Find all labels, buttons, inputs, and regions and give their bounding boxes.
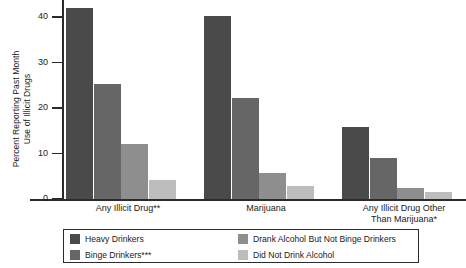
bar-g2-s2: [397, 188, 424, 199]
bar-g0-s2: [121, 144, 148, 199]
bar-g1-s2: [259, 173, 286, 199]
x-axis-line: [30, 199, 466, 201]
y-tick-label-0: 0: [26, 194, 48, 203]
bar-g1-s3: [287, 186, 314, 199]
chart-container: Percent Reporting Past Month Use of Illi…: [0, 0, 466, 268]
legend-swatch-1: [70, 250, 80, 260]
legend-swatch-3: [238, 250, 248, 260]
y-tick-20: [52, 107, 63, 108]
legend-label-1: Binge Drinkers***: [85, 250, 151, 260]
legend-label-3: Did Not Drink Alcohol: [253, 250, 334, 260]
legend-label-2: Drank Alcohol But Not Binge Drinkers: [253, 234, 396, 244]
bar-g0-s3: [149, 180, 176, 199]
x-axis-label-2-line-1: Than Marijuana*: [318, 214, 466, 225]
bar-g0-s0: [66, 8, 93, 199]
x-axis-label-2: Any Illicit Drug OtherThan Marijuana*: [318, 203, 466, 225]
y-tick-label-30: 30: [26, 58, 48, 67]
y-tick-40: [52, 16, 63, 17]
legend-item-3: Did Not Drink Alcohol: [238, 247, 426, 263]
y-tick-label-10: 10: [26, 149, 48, 158]
bar-g2-s0: [342, 127, 369, 199]
chart-legend: Heavy Drinkers Drank Alcohol But Not Bin…: [63, 229, 419, 263]
y-axis-title-line-1: Percent Reporting Past Month: [11, 51, 22, 168]
legend-swatch-2: [238, 234, 248, 244]
legend-item-1: Binge Drinkers***: [70, 247, 238, 263]
bar-g2-s3: [425, 192, 452, 199]
plot-area: [63, 0, 466, 199]
bar-group-2: [342, 0, 466, 199]
y-tick-label-20: 20: [26, 103, 48, 112]
legend-label-0: Heavy Drinkers: [85, 234, 144, 244]
legend-item-2: Drank Alcohol But Not Binge Drinkers: [238, 231, 426, 247]
bar-g0-s1: [94, 84, 121, 199]
legend-swatch-0: [70, 234, 80, 244]
x-axis-label-2-line-0: Any Illicit Drug Other: [318, 203, 466, 214]
y-tick-label-40: 40: [26, 12, 48, 21]
y-tick-0: [52, 198, 63, 199]
y-tick-10: [52, 153, 63, 154]
bar-g1-s0: [204, 16, 231, 199]
bar-g1-s1: [232, 98, 259, 199]
legend-item-0: Heavy Drinkers: [70, 231, 238, 247]
bar-g2-s1: [370, 158, 397, 199]
bar-group-0: [66, 0, 190, 199]
y-tick-30: [52, 62, 63, 63]
bar-group-1: [204, 0, 328, 199]
